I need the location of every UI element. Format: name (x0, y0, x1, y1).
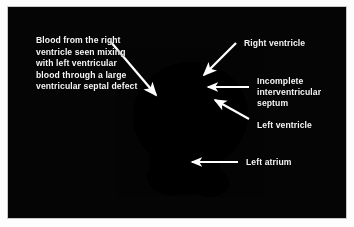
annotation-label-right-ventricle: Right ventricle (244, 38, 305, 48)
figure-plate: Blood from the right ventricle seen mixi… (8, 7, 346, 218)
annotation-label-left-ventricle: Left ventricle (257, 120, 312, 130)
annotation-label-vsd: Blood from the right ventricle seen mixi… (36, 35, 140, 93)
figure-root: Blood from the right ventricle seen mixi… (0, 0, 354, 227)
annotation-label-septum: Incomplete interventricular septum (257, 76, 346, 110)
annotation-label-left-atrium: Left atrium (246, 157, 292, 167)
